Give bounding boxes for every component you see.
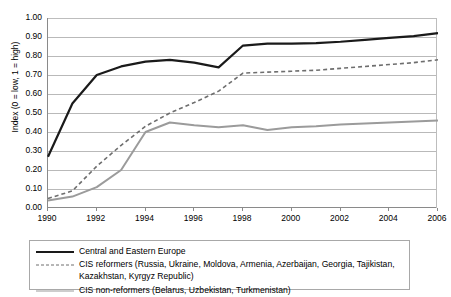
chart-legend: Central and Eastern EuropeCIS reformers … bbox=[29, 240, 410, 290]
x-tick-mark bbox=[145, 208, 146, 211]
x-tick-mark bbox=[388, 208, 389, 211]
x-tick-label: 2004 bbox=[368, 213, 408, 223]
x-tick-label: 2006 bbox=[417, 213, 451, 223]
x-tick-label: 1998 bbox=[222, 213, 262, 223]
y-tick-label: 0.30 bbox=[25, 146, 42, 155]
x-tick-mark bbox=[437, 208, 438, 211]
solid-grey-line-icon bbox=[36, 285, 74, 297]
y-tick-label: 0.10 bbox=[25, 184, 42, 193]
dashed-grey-line-icon bbox=[36, 259, 74, 271]
legend-entry[interactable]: CIS non-reformers (Belarus, Uzbekistan, … bbox=[30, 284, 409, 297]
x-tick-label: 1990 bbox=[27, 213, 67, 223]
y-tick-label: 0.80 bbox=[25, 51, 42, 60]
x-tick-label: 1992 bbox=[76, 213, 116, 223]
y-tick-label: 0.40 bbox=[25, 127, 42, 136]
plot-area bbox=[47, 18, 437, 208]
legend-entry[interactable]: CIS reformers (Russia, Ukraine, Moldova,… bbox=[30, 258, 409, 271]
solid-black-line-icon bbox=[36, 246, 74, 258]
x-tick-mark bbox=[291, 208, 292, 211]
legend-label-continued: Kazakhstan, Kyrgyz Republic) bbox=[79, 271, 194, 282]
series-line-2 bbox=[48, 121, 438, 201]
y-tick-label: 1.00 bbox=[25, 13, 42, 22]
x-tick-mark bbox=[96, 208, 97, 211]
x-tick-mark bbox=[47, 208, 48, 211]
series-lines bbox=[48, 18, 438, 208]
x-axis-tick-labels: 199019921994199619982000200220042006 bbox=[0, 208, 444, 232]
x-tick-label: 2000 bbox=[271, 213, 311, 223]
y-tick-label: 0.20 bbox=[25, 165, 42, 174]
y-axis-tick-labels: 0.000.100.200.300.400.500.600.700.800.90… bbox=[0, 0, 47, 232]
y-tick-label: 0.70 bbox=[25, 70, 42, 79]
x-tick-label: 2002 bbox=[320, 213, 360, 223]
legend-label: CIS non-reformers (Belarus, Uzbekistan, … bbox=[79, 285, 291, 296]
legend-entry[interactable]: Central and Eastern Europe bbox=[30, 245, 409, 258]
series-line-0 bbox=[48, 33, 438, 157]
x-tick-mark bbox=[193, 208, 194, 211]
x-tick-label: 1996 bbox=[173, 213, 213, 223]
x-tick-label: 1994 bbox=[125, 213, 165, 223]
x-tick-mark bbox=[340, 208, 341, 211]
line-chart-figure: Index (0 = low, 1 = high) 0.000.100.200.… bbox=[0, 0, 444, 232]
x-tick-mark bbox=[242, 208, 243, 211]
legend-label: Central and Eastern Europe bbox=[79, 246, 186, 257]
y-tick-label: 0.90 bbox=[25, 32, 42, 41]
series-line-1 bbox=[48, 60, 438, 199]
y-tick-label: 0.60 bbox=[25, 89, 42, 98]
y-tick-label: 0.50 bbox=[25, 108, 42, 117]
legend-label: CIS reformers (Russia, Ukraine, Moldova,… bbox=[79, 259, 395, 270]
